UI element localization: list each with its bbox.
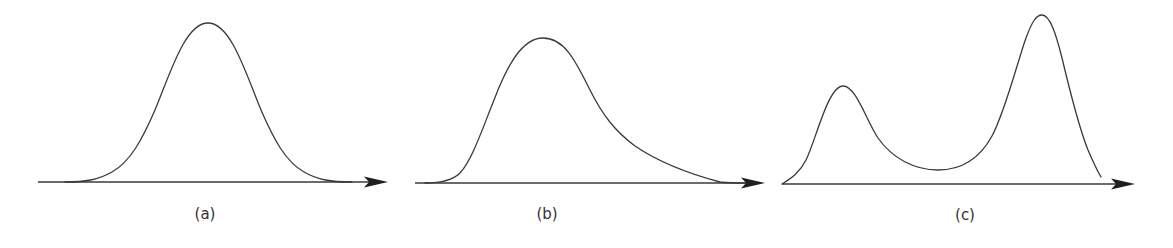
panel-c-bimodal-curve xyxy=(782,15,1101,184)
panel-b xyxy=(415,38,765,189)
panel-a-caption: (a) xyxy=(195,205,216,223)
panel-a xyxy=(38,23,388,188)
figure-canvas xyxy=(0,0,1173,248)
distribution-shapes-figure: (a) (b) (c) xyxy=(0,0,1173,248)
panel-a-symmetric-curve xyxy=(65,23,352,182)
panel-c-caption: (c) xyxy=(955,206,975,224)
panel-b-right-skewed-curve xyxy=(425,38,745,183)
panel-b-caption: (b) xyxy=(536,205,557,223)
panel-c xyxy=(782,15,1135,190)
